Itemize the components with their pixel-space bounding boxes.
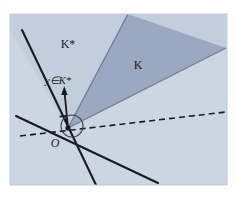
label-y-in-k-star: y∈K* xyxy=(44,75,72,86)
cone-diagram-svg: K* K y∈K* O xyxy=(0,0,235,198)
label-k: K xyxy=(134,58,143,72)
origin-point xyxy=(65,125,70,130)
label-k-star: K* xyxy=(61,37,76,51)
figure-container: K* K y∈K* O xyxy=(0,0,235,198)
label-origin: O xyxy=(51,136,60,150)
